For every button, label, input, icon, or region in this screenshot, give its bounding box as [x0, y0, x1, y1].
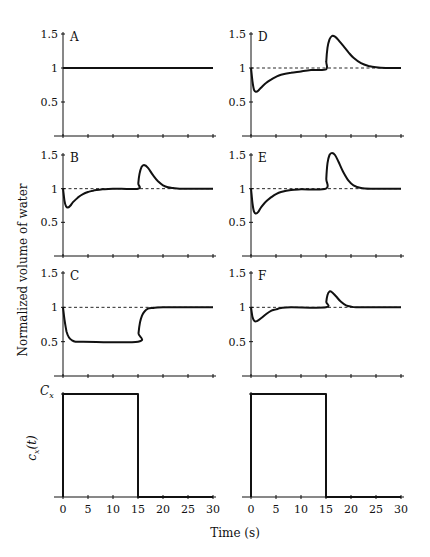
y-tick-label: 1 [239, 183, 246, 196]
series-line [63, 165, 213, 207]
panel-letter: C [70, 269, 79, 283]
panel-letter: F [258, 269, 266, 283]
series-line [251, 153, 401, 214]
x-tick-label: 0 [60, 503, 67, 516]
bottom-y-tick-label: Cx [40, 384, 54, 400]
panel-input-right: 051015202530 [242, 392, 408, 516]
panel-d: 0.511.5D [229, 28, 405, 138]
panel-f: 0.511.5F [229, 267, 405, 378]
panel-letter: A [69, 30, 79, 44]
panel-b: 0.511.5B [41, 149, 217, 258]
y-tick-label: 1 [51, 62, 58, 75]
x-tick-label: 30 [394, 503, 408, 516]
x-axis-label: Time (s) [210, 526, 260, 540]
panel-a: 0.511.5A [41, 28, 217, 138]
series-line [251, 36, 401, 92]
y-tick-label: 1 [239, 301, 246, 314]
panel-c: 0.511.5C [41, 267, 217, 378]
y-tick-label: 0.5 [41, 336, 59, 349]
x-tick-label: 25 [369, 503, 383, 516]
x-tick-label: 20 [156, 503, 170, 516]
panel-letter: D [258, 30, 268, 44]
x-tick-label: 0 [248, 503, 255, 516]
y-tick-label: 1.5 [41, 267, 59, 280]
y-tick-label: 0.5 [229, 336, 247, 349]
y-tick-label: 0.5 [229, 216, 247, 229]
x-tick-label: 25 [181, 503, 195, 516]
x-tick-label: 15 [131, 503, 145, 516]
x-tick-label: 5 [85, 503, 92, 516]
panel-group: 0.511.5A0.511.5B0.511.5C0.511.5D0.511.5E… [41, 28, 409, 516]
y-tick-label: 1 [239, 62, 246, 75]
panel-letter: B [70, 151, 79, 165]
y-tick-label: 0.5 [41, 216, 59, 229]
series-line [63, 307, 213, 342]
panel-input-left: 051015202530 [54, 392, 220, 516]
y-axis-label: Normalized volume of water [16, 183, 30, 356]
y-tick-label: 1.5 [229, 28, 247, 41]
y-tick-label: 0.5 [229, 96, 247, 109]
series-line [251, 291, 401, 321]
x-tick-label: 15 [319, 503, 333, 516]
y-tick-label: 0.5 [41, 96, 59, 109]
figure-canvas: 0.511.5A0.511.5B0.511.5C0.511.5D0.511.5E… [0, 0, 430, 557]
x-tick-label: 10 [106, 503, 120, 516]
panel-e: 0.511.5E [229, 149, 405, 258]
bottom-y-axis-label: cx(t) [25, 435, 41, 461]
x-tick-label: 20 [344, 503, 358, 516]
x-tick-label: 30 [206, 503, 220, 516]
y-tick-label: 1.5 [229, 149, 247, 162]
y-tick-label: 1.5 [229, 267, 247, 280]
series-line [63, 394, 213, 497]
svg-text:Cx: Cx [40, 384, 54, 400]
y-tick-label: 1 [51, 183, 58, 196]
y-tick-label: 1.5 [41, 28, 59, 41]
x-tick-label: 5 [273, 503, 280, 516]
panel-letter: E [258, 151, 267, 165]
svg-text:cx(t): cx(t) [25, 435, 41, 461]
y-tick-label: 1 [51, 301, 58, 314]
x-tick-label: 10 [294, 503, 308, 516]
y-tick-label: 1.5 [41, 149, 59, 162]
series-line [251, 394, 401, 497]
